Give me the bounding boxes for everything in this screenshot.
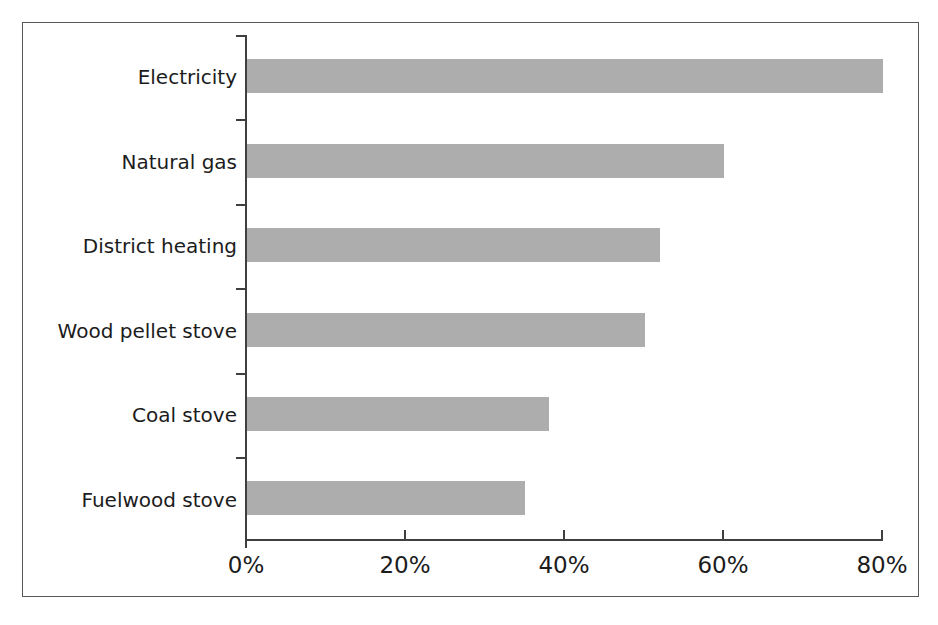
x-axis-label-20: 20% <box>345 552 465 578</box>
category-tick <box>236 457 246 459</box>
category-label-district-heating: District heating <box>83 236 237 256</box>
x-axis-tick-40 <box>563 530 565 540</box>
category-label-coal-stove: Coal stove <box>132 405 237 425</box>
x-axis-label-60: 60% <box>663 552 783 578</box>
plot-area: 0% 20% 40% 60% 80% Electricity Natural g… <box>0 0 938 625</box>
bar-natural-gas <box>247 144 724 178</box>
chart-figure: 0% 20% 40% 60% 80% Electricity Natural g… <box>0 0 938 625</box>
category-tick <box>236 119 246 121</box>
x-axis-tick-60 <box>722 530 724 540</box>
bar-district-heating <box>247 228 660 262</box>
category-tick <box>236 373 246 375</box>
bar-fuelwood-stove <box>247 481 525 515</box>
category-label-natural-gas: Natural gas <box>122 152 238 172</box>
category-label-fuelwood-stove: Fuelwood stove <box>82 490 237 510</box>
bar-electricity <box>247 59 883 93</box>
bar-wood-pellet-stove <box>247 313 645 347</box>
category-tick <box>236 288 246 290</box>
category-tick <box>236 35 246 37</box>
category-tick <box>236 204 246 206</box>
category-label-wood-pellet-stove: Wood pellet stove <box>58 321 237 341</box>
x-axis-label-0: 0% <box>186 552 306 578</box>
x-axis-tick-20 <box>404 530 406 540</box>
x-axis-label-80: 80% <box>822 552 938 578</box>
category-label-electricity: Electricity <box>138 67 237 87</box>
bar-coal-stove <box>247 397 549 431</box>
x-axis-tick-0 <box>245 532 247 548</box>
x-axis-tick-80 <box>881 530 883 540</box>
x-axis-label-40: 40% <box>504 552 624 578</box>
